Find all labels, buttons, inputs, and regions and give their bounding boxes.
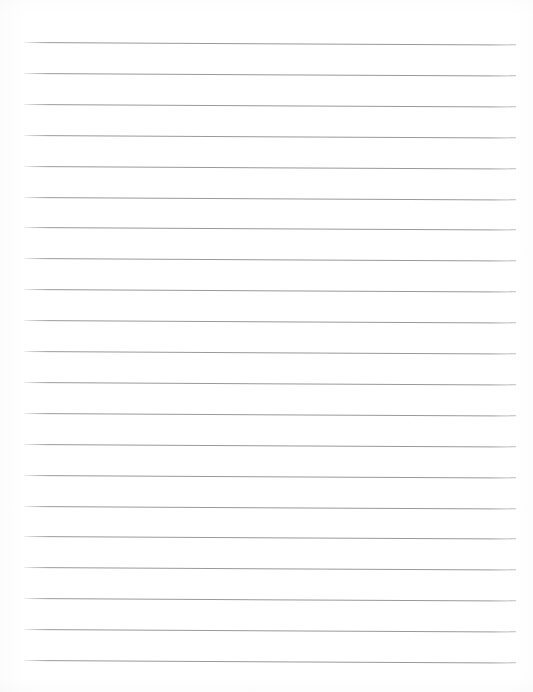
lined-paper-page [0, 0, 533, 692]
writing-area[interactable] [24, 20, 516, 680]
